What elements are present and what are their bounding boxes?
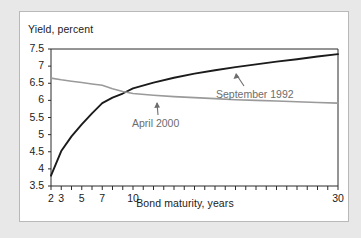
axes-group — [48, 49, 338, 190]
y-tick-label: 7 — [20, 59, 44, 71]
y-tick-label: 6 — [20, 93, 44, 105]
y-tick-label: 6.5 — [20, 76, 44, 88]
x-axis-title: Bond maturity, years — [20, 197, 350, 209]
yield-curve-chart: Yield, percent 3.544.555.566.577.5 23571… — [20, 12, 350, 223]
y-tick-label: 4 — [20, 162, 44, 174]
y-tick-label: 3.5 — [20, 179, 44, 191]
series-group — [51, 54, 338, 176]
series-label-april-2000: April 2000 — [132, 117, 179, 129]
figure-card: Yield, percent 3.544.555.566.577.5 23571… — [19, 11, 349, 222]
y-tick-label: 5 — [20, 128, 44, 140]
series-line-september-1992 — [51, 78, 338, 103]
y-tick-label: 7.5 — [20, 42, 44, 54]
annotation-arrow — [154, 102, 160, 108]
series-label-september-1992: September 1992 — [216, 88, 294, 100]
series-line-april-2000 — [51, 54, 338, 176]
y-tick-label: 5.5 — [20, 111, 44, 123]
y-tick-label: 4.5 — [20, 145, 44, 157]
